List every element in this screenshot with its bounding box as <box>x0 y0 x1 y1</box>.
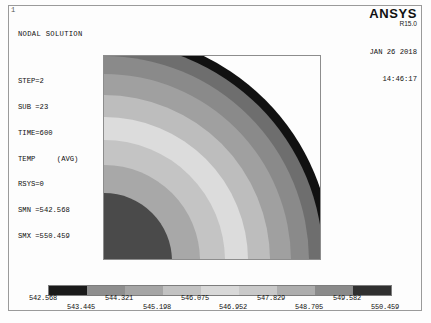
info-smx: SMX =550.459 <box>18 232 83 241</box>
legend-tick-label-5: 546.952 <box>219 303 247 311</box>
header-spacer <box>18 56 83 60</box>
ansys-wordmark: ANSYS <box>369 7 417 20</box>
legend-tick-label-1: 543.445 <box>67 303 95 311</box>
timestamp-date: JAN 26 2018 <box>370 48 417 57</box>
ansys-plot-window: 1 NODAL SOLUTION STEP=2 SUB =23 TIME=600… <box>0 0 431 323</box>
info-quantity: TEMP (AVG) <box>18 155 83 164</box>
legend-tick-label-2: 544.321 <box>105 294 133 302</box>
ansys-logo: ANSYS R15.0 <box>369 7 417 28</box>
legend-tick-label-6: 547.829 <box>257 294 285 302</box>
info-smn: SMN =542.568 <box>18 206 83 215</box>
timestamp-block: JAN 26 2018 14:46:17 <box>370 30 417 102</box>
legend-tick-label-9: 550.459 <box>371 303 399 311</box>
legend-tick-label-3: 545.198 <box>143 303 171 311</box>
contour-legend-labels: 542.568543.445544.321545.198546.075546.9… <box>8 294 422 316</box>
info-rsys: RSYS=0 <box>18 180 83 189</box>
contour-plot: MN <box>103 55 321 260</box>
legend-tick-label-0: 542.568 <box>29 294 57 302</box>
nodal-solution-title: NODAL SOLUTION <box>18 30 83 39</box>
window-index-label: 1 <box>11 6 15 14</box>
info-step: STEP=2 <box>18 77 83 86</box>
legend-tick-label-8: 549.582 <box>333 294 361 302</box>
info-time: TIME=600 <box>18 129 83 138</box>
legend-tick-label-7: 548.705 <box>295 303 323 311</box>
legend-tick-label-4: 546.075 <box>181 294 209 302</box>
info-sub: SUB =23 <box>18 103 83 112</box>
plot-frame: MN <box>103 55 321 260</box>
timestamp-time: 14:46:17 <box>370 75 417 84</box>
ansys-release-label: R15.0 <box>369 20 417 28</box>
solution-info-block: NODAL SOLUTION STEP=2 SUB =23 TIME=600 T… <box>18 13 83 258</box>
